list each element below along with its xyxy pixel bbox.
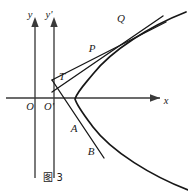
parabola-curve <box>75 12 188 190</box>
y-prime-axis-label: y' <box>45 9 54 20</box>
origin-label: O <box>26 101 34 112</box>
line-secant-to-Q <box>52 22 166 80</box>
point-label-P: P <box>88 42 96 54</box>
point-label-B: B <box>88 145 95 157</box>
figure-container: x y O y' O' Q P T A B 图 3 <box>0 0 188 192</box>
y-axis-group: y O <box>26 9 38 178</box>
x-axis-label: x <box>163 95 169 106</box>
line-T-P-Q <box>52 16 163 92</box>
point-label-A: A <box>70 122 78 134</box>
point-label-Q: Q <box>117 12 125 24</box>
y-prime-axis-group: y' O' <box>44 9 58 178</box>
origin-prime-label: O' <box>44 101 55 112</box>
x-axis-arrowhead <box>150 94 160 101</box>
y-axis-label: y <box>27 9 33 20</box>
figure-caption: 图 3 <box>43 172 63 183</box>
geometry-figure: x y O y' O' Q P T A B 图 3 <box>0 0 188 192</box>
y-axis-arrowhead <box>31 17 38 27</box>
point-label-T: T <box>59 70 66 82</box>
